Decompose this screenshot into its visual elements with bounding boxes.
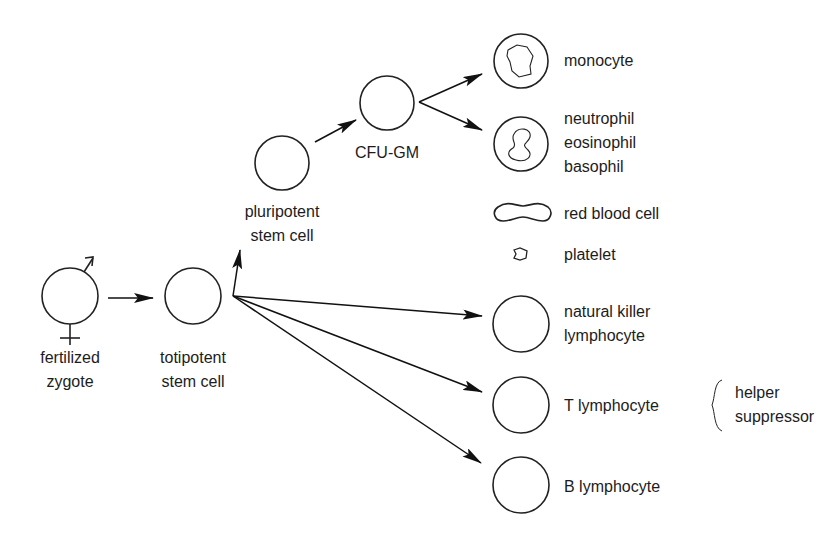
t-subtypes-label: helper suppressor xyxy=(735,381,814,429)
brace-icon xyxy=(712,380,722,431)
b-cell xyxy=(493,457,549,513)
t-cell xyxy=(493,377,549,433)
arrow-to-nk xyxy=(233,296,482,316)
monocyte-label: monocyte xyxy=(564,49,633,73)
zygote-cell xyxy=(42,257,98,345)
cfu-gm-cell xyxy=(360,76,414,130)
granulocyte-label: neutrophil eosinophil basophil xyxy=(564,107,636,179)
pluripotent-label: pluripotent stem cell xyxy=(222,200,342,248)
arrow-to-granulocyte xyxy=(419,102,482,130)
red-blood-cell-shape xyxy=(494,204,551,221)
arrow-to-monocyte xyxy=(419,74,482,102)
arrow-to-b-cell xyxy=(233,296,481,463)
b-cell-label: B lymphocyte xyxy=(564,475,660,499)
lineage-diagram xyxy=(0,0,831,536)
granulocyte-cell xyxy=(494,117,548,171)
t-cell-label: T lymphocyte xyxy=(564,394,659,418)
totipotent-cell xyxy=(165,268,221,324)
cfu-gm-label: CFU-GM xyxy=(337,141,437,165)
arrow-to-pluripotent xyxy=(233,250,240,296)
nk-label: natural killer lymphocyte xyxy=(564,300,650,348)
platelet-label: platelet xyxy=(564,243,616,267)
platelet-shape xyxy=(514,248,527,260)
monocyte-cell xyxy=(494,34,548,88)
nk-cell xyxy=(493,296,549,352)
totipotent-label: totipotent stem cell xyxy=(143,346,243,394)
arrow-to-cfu-gm xyxy=(315,120,356,142)
arrow-to-t-cell xyxy=(233,296,482,392)
zygote-label: fertilized zygote xyxy=(20,346,120,394)
pluripotent-cell xyxy=(255,136,309,190)
rbc-label: red blood cell xyxy=(564,202,659,226)
